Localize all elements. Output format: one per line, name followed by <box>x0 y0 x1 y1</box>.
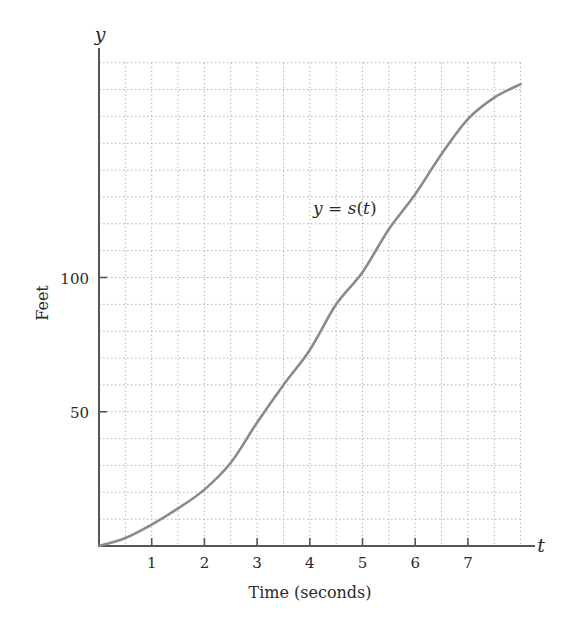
chart-canvas: 123456750100 y t Feet Time (seconds) y =… <box>0 0 575 630</box>
x-tick-label: 5 <box>358 554 368 572</box>
x-tick-label: 4 <box>305 554 315 572</box>
y-axis-title: Feet <box>33 285 52 321</box>
curve-annotation: y = s(t) <box>312 198 377 218</box>
annotation-close: ) <box>370 198 377 218</box>
x-tick-label: 1 <box>147 554 157 572</box>
annotation-open: ( <box>356 198 363 218</box>
x-tick-label: 6 <box>410 554 420 572</box>
x-tick-label: 3 <box>252 554 262 572</box>
tick-labels: 123456750100 <box>60 270 472 573</box>
y-axis-variable-label: y <box>94 23 106 45</box>
x-tick-label: 7 <box>463 554 473 572</box>
x-tick-label: 2 <box>200 554 210 572</box>
t-axis-variable-label: t <box>537 534 545 556</box>
annotation-fn: s <box>348 198 357 218</box>
axes <box>98 48 535 547</box>
annotation-eq: = <box>323 198 348 218</box>
x-axis-title: Time (seconds) <box>248 583 371 602</box>
y-tick-label: 100 <box>60 270 89 288</box>
grid-lines <box>99 63 521 546</box>
y-tick-label: 50 <box>70 404 89 422</box>
annotation-lhs: y <box>312 198 323 218</box>
